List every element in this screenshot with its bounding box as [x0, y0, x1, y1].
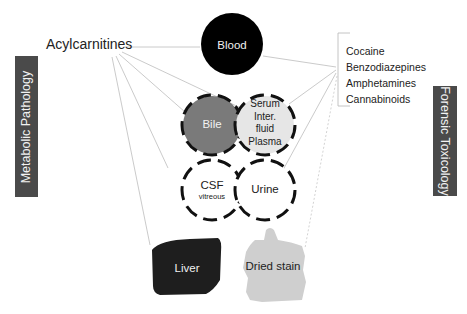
line-acyl-liver: [112, 57, 150, 245]
bile-label: Bile: [182, 118, 242, 131]
csf-main-label: CSF: [182, 178, 242, 192]
urine-label: Urine: [235, 183, 295, 196]
forensic-toxicology-label: Forensic Toxicology: [438, 86, 452, 196]
serum-line-2: Inter.: [235, 111, 295, 124]
serum-label: Serum Inter. fluid Plasma: [235, 98, 295, 148]
forensic-toxicology-bar: Forensic Toxicology: [433, 86, 457, 196]
line-forensic-dried-stain: [305, 76, 337, 248]
line-forensic-blood: [263, 56, 336, 67]
serum-line-3: fluid: [235, 123, 295, 136]
forensic-drug-list: Cocaine Benzodiazepines Amphetamines Can…: [346, 43, 426, 107]
csf-label: CSF vitreous: [182, 178, 242, 202]
serum-line-1: Serum: [235, 98, 295, 111]
metabolic-pathology-bar: Metabolic Pathology: [15, 56, 38, 197]
csf-sublabel: vitreous: [182, 192, 242, 202]
line-acyl-csf: [116, 56, 168, 168]
liver-label: Liver: [156, 262, 218, 275]
drug-item-amphetamines: Amphetamines: [346, 75, 426, 91]
drug-item-cannabinoids: Cannabinoids: [346, 91, 426, 107]
acylcarnitines-label: Acylcarnitines: [46, 36, 132, 52]
serum-line-4: Plasma: [235, 136, 295, 149]
line-forensic-serum: [289, 70, 336, 104]
drug-item-cocaine: Cocaine: [346, 43, 426, 59]
metabolic-pathology-label: Metabolic Pathology: [20, 70, 34, 183]
blood-label: Blood: [202, 39, 262, 52]
dried-stain-label: Dried stain: [240, 260, 306, 273]
drug-item-benzodiazepines: Benzodiazepines: [346, 59, 426, 75]
